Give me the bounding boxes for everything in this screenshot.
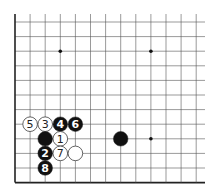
stone-white-move-5: 5 [23,117,38,132]
star-point [149,49,153,53]
star-point [149,137,153,141]
move-number: 1 [57,133,64,146]
stone-black-move-6: 6 [68,117,83,132]
go-board: 53461278 [0,0,218,195]
stone-black [38,132,53,147]
stone-black-move-4: 4 [53,117,68,132]
stone-black-move-2: 2 [38,146,53,161]
move-number: 6 [72,118,80,131]
stone-body [68,146,83,161]
stone-white-move-3: 3 [38,117,53,132]
move-number: 8 [41,162,49,175]
stone-black [113,132,128,147]
move-number: 7 [57,147,64,160]
move-number: 3 [42,118,49,131]
move-number: 2 [41,147,49,160]
stone-white-move-1: 1 [53,132,68,147]
stone-white [68,146,83,161]
stone-body [38,132,53,147]
star-point [59,49,63,53]
move-number: 5 [27,118,34,131]
stone-black-move-8: 8 [38,161,53,176]
move-number: 4 [56,118,64,131]
stone-body [113,132,128,147]
stone-white-move-7: 7 [53,146,68,161]
